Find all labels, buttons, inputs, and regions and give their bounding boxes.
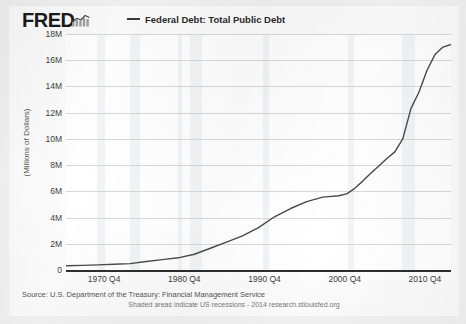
x-axis-line: [66, 270, 451, 272]
mini-bar-chart-icon: [71, 13, 91, 27]
y-axis-tick-label: 10M: [28, 134, 62, 144]
x-axis-tick-label: 1980 Q4: [168, 274, 201, 284]
y-axis-tick-label: 6M: [28, 186, 62, 196]
fred-chart-screenshot: FRED Federal Debt: Total Public Debt (Mi…: [0, 0, 466, 324]
chart-card: FRED Federal Debt: Total Public Debt (Mi…: [9, 6, 459, 316]
legend-series-label: Federal Debt: Total Public Debt: [145, 14, 285, 25]
y-axis-tick-label: 8M: [28, 160, 62, 170]
x-axis-tick-label: 1970 Q4: [88, 274, 121, 284]
x-axis-tick-label: 1990 Q4: [248, 274, 281, 284]
x-axis-tick-label: 2010 Q4: [409, 274, 442, 284]
chart-legend[interactable]: Federal Debt: Total Public Debt: [127, 12, 285, 26]
series-polyline: [66, 44, 451, 265]
footer-note: Shaded areas indicate US recessions - 20…: [9, 301, 459, 308]
y-axis-tick-label: 12M: [28, 108, 62, 118]
y-axis-tick-label: 4M: [28, 213, 62, 223]
y-axis-tick-label: 18M: [28, 29, 62, 39]
source-note: Source: U.S. Department of the Treasury:…: [22, 290, 265, 299]
data-series-line: [66, 34, 451, 270]
line-dash-icon: [127, 18, 140, 20]
plot-container: (Millions of Dollars) 02M4M6M8M10M12M14M…: [9, 34, 459, 286]
y-axis-tick-label: 0: [28, 265, 62, 275]
plot-area[interactable]: [66, 34, 451, 270]
y-axis-tick-label: 14M: [28, 81, 62, 91]
y-axis-tick-labels: 02M4M6M8M10M12M14M16M18M: [9, 34, 62, 286]
y-axis-tick-label: 16M: [28, 55, 62, 65]
x-axis-tick-label: 2000 Q4: [328, 274, 361, 284]
chart-header: FRED Federal Debt: Total Public Debt: [9, 6, 459, 34]
y-axis-tick-label: 2M: [28, 239, 62, 249]
